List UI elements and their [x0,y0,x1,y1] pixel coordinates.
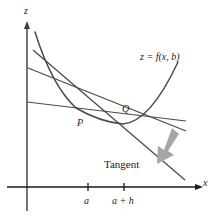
x-axis-label: x [203,178,207,188]
point-p-label: P [77,118,83,128]
function-curve [35,32,178,124]
tangent-label: Tangent [104,159,139,170]
z-axis-arrowhead [24,21,30,29]
horizontal-reference-line [27,102,186,121]
x-axis-arrowhead [195,184,203,190]
diagram-canvas [0,0,218,219]
curve-equation-label: z = f(x, b) [140,52,180,62]
tick-label-a-plus-h: a + h [112,196,134,206]
tick-label-a: a [84,196,89,206]
tangent-pointer-arrow [157,128,179,164]
tangent-secant-diagram: z x z = f(x, b) P Q Tangent a a + h [0,0,218,219]
z-axis-label: z [24,6,28,16]
point-q-label: Q [122,104,129,114]
